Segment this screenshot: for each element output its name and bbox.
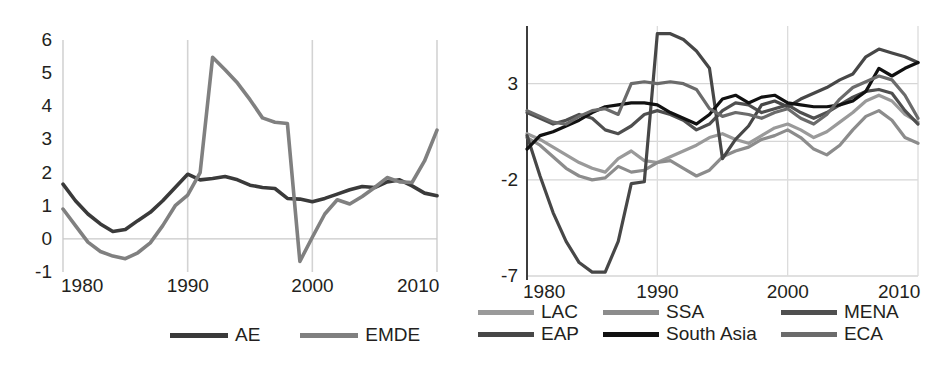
right-y-tick-label: -2 [478,170,518,189]
left-y-tick-label: 5 [14,63,52,82]
right-series-line-eap [527,34,918,272]
left-x-tick-label: 2010 [397,276,439,295]
right-x-tick-label: 2000 [767,282,809,301]
legend-line-swatch-icon [478,332,534,337]
right-y-tick-label: 3 [478,74,518,93]
figure-two-line-charts: 6543210-1 1980199020002010 AEEMDE 3-2-7 … [0,0,945,365]
legend-item-eca[interactable]: ECA [781,324,899,344]
left-y-tick-label: -1 [14,262,52,281]
left-x-tick-label: 1990 [167,276,209,295]
legend-label: MENA [844,302,899,322]
left-y-tick-label: 2 [14,163,52,182]
chart-panel-left: 6543210-1 1980199020002010 AEEMDE [0,0,470,365]
left-y-tick-label: 0 [14,229,52,248]
left-y-tick-label: 1 [14,196,52,215]
right-y-tick-label: -7 [478,266,518,285]
right-series-line-ssa [527,111,918,180]
right-x-tick-label: 1980 [523,282,565,301]
legend-line-swatch-icon [781,310,837,315]
legend-line-swatch-icon [781,332,837,337]
right-series-line-lac [527,95,918,172]
legend-line-swatch-icon [478,310,534,315]
legend-label: South Asia [666,324,757,344]
right-chart-legend: LACSSAMENAEAPSouth AsiaECA [478,302,899,344]
legend-line-swatch-icon [603,332,659,337]
legend-item-lac[interactable]: LAC [478,302,579,322]
legend-item-ssa[interactable]: SSA [603,302,757,322]
left-chart-legend: AEEMDE [170,325,420,345]
right-x-tick-label: 1990 [636,282,678,301]
left-y-tick-label: 4 [14,96,52,115]
legend-line-swatch-icon [300,333,358,338]
legend-line-swatch-icon [170,333,228,338]
left-x-tick-label: 2000 [291,276,333,295]
left-chart-plot [0,0,470,365]
legend-item-ae[interactable]: AE [170,325,260,345]
left-x-tick-label: 1980 [61,276,103,295]
legend-item-mena[interactable]: MENA [781,302,899,322]
legend-label: LAC [541,302,578,322]
right-x-tick-label: 2010 [878,282,920,301]
legend-label: SSA [666,302,704,322]
chart-panel-right: 3-2-7 1980199020002010 LACSSAMENAEAPSout… [470,0,945,365]
legend-item-south-asia[interactable]: South Asia [603,324,757,344]
legend-item-emde[interactable]: EMDE [300,325,420,345]
legend-label: EMDE [365,325,420,345]
legend-label: EAP [541,324,579,344]
left-y-tick-label: 3 [14,129,52,148]
legend-item-eap[interactable]: EAP [478,324,579,344]
legend-line-swatch-icon [603,310,659,315]
left-y-tick-label: 6 [14,30,52,49]
legend-label: AE [235,325,260,345]
legend-label: ECA [844,324,883,344]
